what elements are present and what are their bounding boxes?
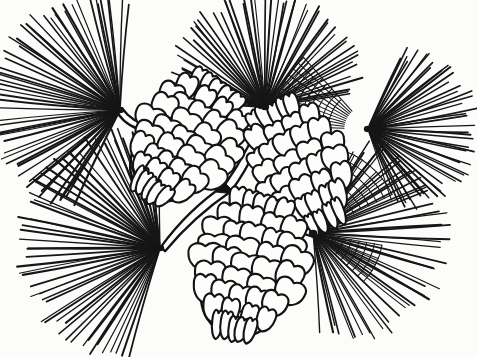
- needle: [27, 248, 156, 249]
- illustration-canvas: [0, 0, 477, 357]
- upper-center-needle-spray-node: [261, 104, 269, 110]
- upper-left-needle-spray-node: [116, 107, 124, 113]
- pine-cone-illustration: [0, 0, 477, 357]
- lower-left-needle-spray-node: [156, 245, 164, 251]
- right-needle-spray-node: [364, 126, 372, 132]
- lower-right-needle-spray-node: [309, 230, 317, 236]
